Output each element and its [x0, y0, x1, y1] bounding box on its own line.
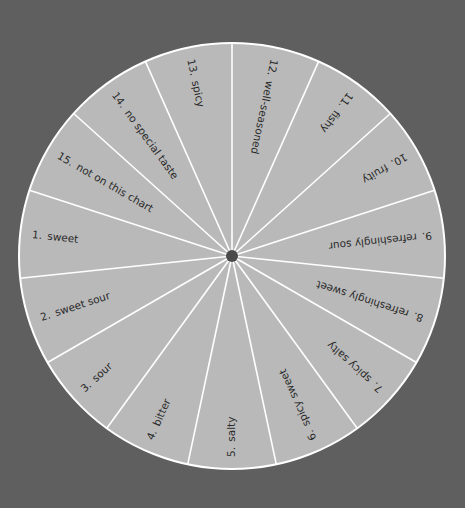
wheel-hub — [226, 250, 238, 262]
sector-number: 9. — [416, 230, 432, 244]
sector-number: 5. — [225, 442, 237, 457]
sector-name: salty — [225, 417, 237, 442]
taste-wheel: 12. well-seasoned11. fishy10. fruity9. r… — [0, 0, 465, 508]
sector-label: 5. salty — [225, 417, 237, 457]
sector-number: 1. — [32, 228, 48, 242]
